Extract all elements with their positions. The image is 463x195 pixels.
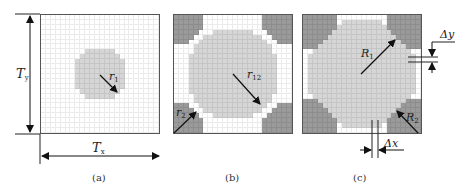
R1-label: R1 (361, 47, 374, 61)
panel-c (302, 14, 422, 134)
grid-cell (154, 128, 159, 133)
r12-label: r12 (247, 68, 261, 82)
grid-b (174, 15, 292, 133)
tx-label: Tx (92, 140, 105, 156)
dx-label: Δx (384, 137, 398, 150)
caption-c: (c) (353, 172, 366, 183)
panel-b (173, 14, 293, 134)
r1-label: r1 (109, 70, 119, 84)
R2-label: R2 (406, 111, 419, 125)
dy-label: Δy (440, 28, 454, 41)
grid-a (41, 15, 159, 133)
caption-b: (b) (225, 172, 239, 183)
panel-a (40, 14, 160, 134)
grid-c (303, 15, 421, 133)
r2-label: r2 (176, 106, 186, 120)
grid-cell (416, 128, 421, 133)
ty-label: Ty (16, 66, 29, 82)
grid-cell (287, 128, 292, 133)
caption-a: (a) (92, 172, 106, 183)
